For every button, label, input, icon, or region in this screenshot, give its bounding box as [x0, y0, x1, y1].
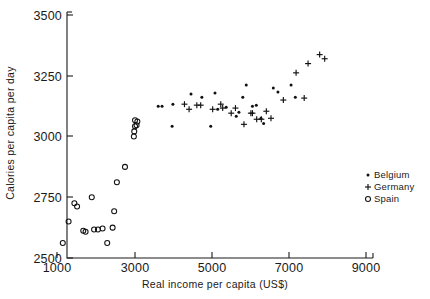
data-point	[251, 105, 254, 108]
data-point	[280, 97, 286, 103]
y-axis-ticks	[67, 15, 73, 258]
data-point	[200, 96, 203, 99]
data-point	[131, 134, 136, 139]
y-tick-label-3000: 3000	[33, 130, 62, 144]
x-axis-tick-labels: 1000 3000 5000 7000 9000	[43, 261, 381, 275]
data-point	[232, 105, 238, 111]
y-tick-label-2750: 2750	[33, 191, 62, 205]
x-tick-label-7000: 7000	[275, 261, 304, 275]
data-points-layer	[60, 52, 327, 246]
data-point	[322, 56, 328, 62]
data-point	[209, 125, 212, 128]
chart-svg: 3500 3250 3000 2750 2500 1000 3000 5000 …	[0, 0, 430, 299]
data-point	[245, 83, 248, 86]
x-axis-title: Real income per capita (US$)	[142, 278, 288, 290]
data-point	[301, 95, 307, 101]
data-point	[198, 102, 204, 108]
axes-group	[67, 12, 373, 258]
series-belgium	[157, 83, 297, 127]
x-tick-label-5000: 5000	[198, 261, 227, 275]
y-tick-label-3250: 3250	[33, 70, 62, 84]
data-point	[213, 92, 216, 95]
y-tick-label-3500: 3500	[33, 9, 62, 23]
y-axis-tick-labels: 3500 3250 3000 2750 2500	[33, 9, 62, 266]
data-point	[276, 91, 279, 94]
data-point	[122, 164, 127, 169]
data-point	[263, 108, 269, 114]
chart-legend: BelgiumGermanySpain	[365, 169, 415, 204]
data-point	[110, 225, 115, 230]
data-point	[105, 240, 110, 245]
data-point	[216, 108, 219, 111]
data-point	[171, 103, 174, 106]
data-point	[237, 111, 240, 114]
legend-marker-germany	[365, 184, 371, 190]
legend-label-germany: Germany	[374, 181, 415, 192]
axis-lines	[67, 12, 373, 258]
data-point	[241, 96, 244, 99]
data-point	[268, 115, 274, 121]
data-point	[181, 101, 187, 107]
data-point	[255, 104, 258, 107]
y-axis-title: Calories per capita per day	[4, 66, 16, 200]
legend-label-spain: Spain	[374, 193, 399, 204]
data-point	[112, 209, 117, 214]
x-axis-ticks	[57, 252, 366, 258]
data-point	[305, 61, 311, 67]
x-tick-label-3000: 3000	[121, 261, 150, 275]
scatter-chart-figure: 3500 3250 3000 2750 2500 1000 3000 5000 …	[0, 0, 430, 299]
data-point	[186, 106, 192, 112]
legend-marker-belgium	[367, 174, 370, 177]
data-point	[157, 105, 160, 108]
legend-marker-spain	[366, 197, 371, 202]
data-point	[75, 204, 80, 209]
data-point	[272, 86, 275, 89]
data-point	[132, 129, 137, 134]
data-point	[100, 226, 105, 231]
legend-label-belgium: Belgium	[374, 169, 410, 180]
data-point	[294, 96, 297, 99]
data-point	[89, 195, 94, 200]
data-point	[60, 240, 65, 245]
data-point	[293, 70, 299, 76]
data-point	[190, 92, 193, 95]
data-point	[114, 180, 119, 185]
data-point	[262, 122, 265, 125]
data-point	[258, 116, 264, 122]
data-point	[171, 125, 174, 128]
x-tick-label-1000: 1000	[43, 261, 72, 275]
series-germany	[181, 52, 327, 128]
data-point	[241, 121, 247, 127]
data-point	[290, 83, 293, 86]
data-point	[317, 52, 323, 58]
data-point	[72, 201, 77, 206]
data-point	[235, 115, 238, 118]
series-spain	[60, 118, 140, 246]
data-point	[228, 110, 234, 116]
data-point	[210, 106, 216, 112]
data-point	[161, 105, 164, 108]
x-tick-label-9000: 9000	[352, 261, 381, 275]
